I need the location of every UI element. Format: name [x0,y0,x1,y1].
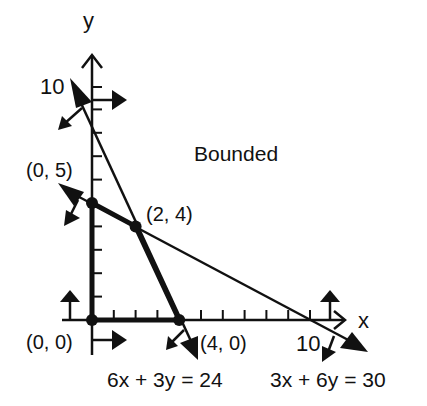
vertex-0-0 [86,314,98,326]
vertex-label-2-4: (2, 4) [146,204,193,224]
vertex-0-5 [86,197,98,209]
region-label: Bounded [194,143,278,164]
vertex-label-4-0: (4, 0) [200,333,247,353]
lp-diagram: y x 10 10 Bounded (0, 0) (0, 5) (2, 4) (… [0,0,427,406]
y-axis-label: y [83,10,94,32]
x-axis-label: x [358,310,369,332]
vertex-label-0-0: (0, 0) [26,332,73,352]
vertex-2-4 [130,220,142,232]
vertex-4-0 [173,314,185,326]
constraint-label-1: 6x + 3y = 24 [107,369,223,390]
x-tick-label-10: 10 [296,333,320,355]
constraint-label-2: 3x + 6y = 30 [270,369,386,390]
vertex-label-0-5: (0, 5) [26,160,73,180]
y-tick-label-10: 10 [40,76,64,98]
